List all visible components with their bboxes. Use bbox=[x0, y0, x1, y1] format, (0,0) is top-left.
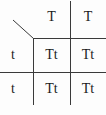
col-header-allele-1: T bbox=[33, 0, 70, 33]
col-header-allele-2: T bbox=[70, 0, 106, 33]
genotype-cell-r1c1: Tt bbox=[33, 38, 70, 72]
row-header-allele-2: t bbox=[0, 72, 26, 105]
genotype-cell-r2c2: Tt bbox=[70, 72, 106, 105]
punnett-square: T T t t Tt Tt Tt Tt bbox=[0, 0, 106, 115]
genotype-cell-r2c1: Tt bbox=[33, 72, 70, 105]
corner-diagonal-line bbox=[13, 20, 34, 39]
genotype-cell-r1c2: Tt bbox=[70, 38, 106, 72]
row-header-allele-1: t bbox=[0, 38, 26, 72]
